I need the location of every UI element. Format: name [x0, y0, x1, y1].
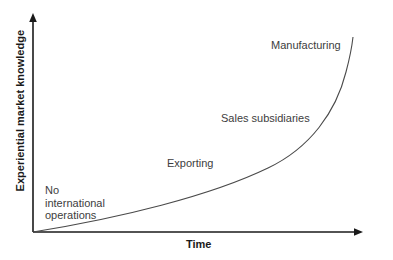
annotation-no-international-operations: No international operations [45, 184, 105, 222]
x-axis-title: Time [186, 238, 211, 250]
annotation-manufacturing: Manufacturing [271, 39, 341, 52]
annotation-sales-subsidiaries: Sales subsidiaries [221, 112, 310, 125]
annotation-exporting: Exporting [167, 157, 213, 170]
y-axis-arrow-icon [29, 13, 37, 22]
y-axis-title: Experiential market knowledge [14, 30, 26, 191]
chart-canvas: Experiential market knowledge Time No in… [0, 0, 393, 260]
x-axis-arrow-icon [354, 228, 363, 236]
